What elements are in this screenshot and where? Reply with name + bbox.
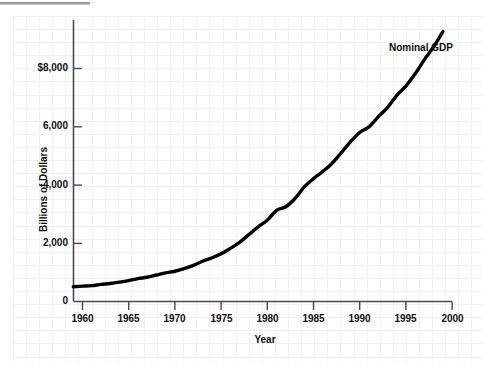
x-tick-marks [83,302,453,311]
x-tick-label-1965: 1965 [106,313,151,324]
y-axis-title: Billions of Dollars [38,147,49,232]
x-tick-label-1995: 1995 [383,313,428,324]
y-tick-label-8000: $8,000 [16,62,68,73]
y-tick-label-2000: 2,000 [16,237,68,248]
x-tick-label-1980: 1980 [245,313,290,324]
gdp-chart-figure: $8,000 6,000 4,000 2,000 0 1960 1965 197… [0,0,495,370]
x-axis-title: Year [225,334,305,345]
y-tick-label-6000: 6,000 [16,120,68,131]
x-tick-label-1960: 1960 [60,313,105,324]
y-tick-label-0: 0 [16,295,68,306]
x-tick-label-1970: 1970 [152,313,197,324]
x-tick-label-1985: 1985 [291,313,336,324]
nominal-gdp-line [73,32,443,287]
y-tick-marks [74,69,83,244]
nominal-gdp-annotation: Nominal GDP [389,42,453,53]
x-tick-label-1990: 1990 [337,313,382,324]
x-tick-label-1975: 1975 [199,313,244,324]
x-tick-label-2000: 2000 [430,313,475,324]
